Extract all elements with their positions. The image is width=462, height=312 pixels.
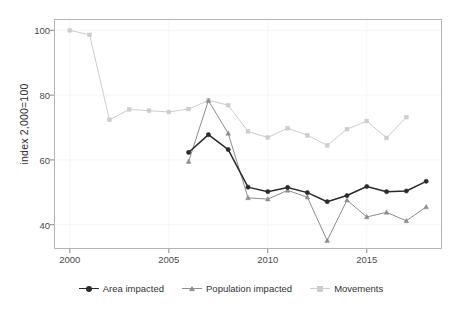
data-point-marker — [365, 119, 369, 123]
legend-marker — [317, 286, 323, 292]
data-point-marker — [226, 103, 230, 107]
legend-marker — [86, 286, 92, 292]
data-point-marker — [345, 193, 349, 197]
plot-area — [0, 0, 462, 312]
data-point-marker — [266, 136, 270, 140]
legend-item-movements[interactable]: Movements — [310, 283, 383, 294]
data-point-marker — [88, 33, 92, 37]
data-point-marker — [167, 110, 171, 114]
legend-label: Movements — [334, 283, 383, 294]
triangle-marker-icon — [182, 284, 202, 294]
data-point-marker — [286, 126, 290, 130]
legend-label: Area impacted — [103, 283, 164, 294]
data-point-marker — [68, 28, 72, 32]
legend-label: Population impacted — [206, 283, 292, 294]
data-point-marker — [285, 185, 289, 189]
circle-marker-icon — [79, 284, 99, 294]
data-point-marker — [226, 147, 230, 151]
data-point-marker — [206, 133, 210, 137]
data-point-marker — [384, 190, 388, 194]
data-point-marker — [404, 115, 408, 119]
data-point-marker — [147, 109, 151, 113]
data-point-marker — [424, 179, 428, 183]
data-point-marker — [365, 184, 369, 188]
data-point-marker — [187, 150, 191, 154]
data-point-marker — [404, 189, 408, 193]
data-point-marker — [187, 107, 191, 111]
data-point-marker — [305, 191, 309, 195]
data-point-marker — [325, 143, 329, 147]
square-marker-icon — [310, 284, 330, 294]
data-point-marker — [305, 133, 309, 137]
data-point-marker — [385, 136, 389, 140]
chart-legend: Area impactedPopulation impactedMovement… — [0, 283, 462, 294]
data-point-marker — [345, 127, 349, 131]
data-point-marker — [266, 190, 270, 194]
legend-item-population-impacted[interactable]: Population impacted — [182, 283, 292, 294]
data-point-marker — [108, 118, 112, 122]
data-point-marker — [325, 200, 329, 204]
line-chart: index 2,000=100 406080100 20002005201020… — [0, 0, 462, 312]
data-point-marker — [246, 185, 250, 189]
legend-item-area-impacted[interactable]: Area impacted — [79, 283, 164, 294]
plot-background — [54, 19, 442, 249]
legend-marker — [189, 286, 195, 291]
data-point-marker — [246, 130, 250, 134]
data-point-marker — [127, 107, 131, 111]
